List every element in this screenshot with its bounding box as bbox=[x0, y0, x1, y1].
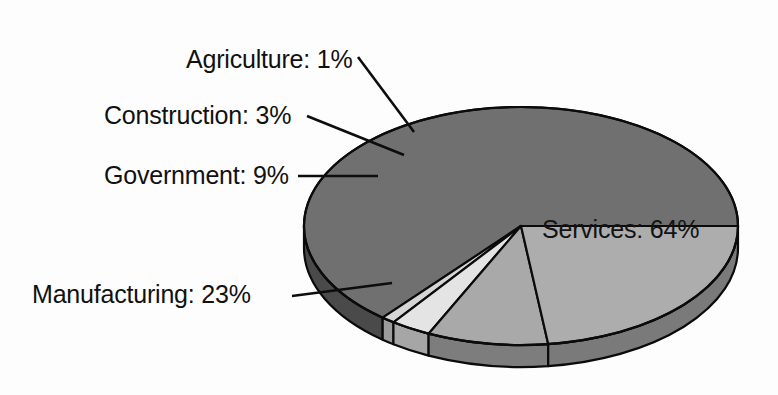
slice-label-services: Services: 64% bbox=[542, 215, 699, 243]
slice-label-government: Government: 9% bbox=[104, 161, 289, 189]
slice-label-agriculture: Agriculture: 1% bbox=[186, 45, 353, 73]
pie-slice-manufacturing[interactable] bbox=[521, 226, 738, 344]
pie-chart-figure: Agriculture: 1%Construction: 3%Governmen… bbox=[0, 0, 778, 395]
leader-line-agriculture bbox=[358, 57, 414, 132]
pie-inside-labels: Services: 64% bbox=[542, 215, 699, 243]
slice-label-manufacturing: Manufacturing: 23% bbox=[32, 280, 251, 308]
slice-label-construction: Construction: 3% bbox=[104, 101, 291, 129]
pie-chart-svg: Agriculture: 1%Construction: 3%Governmen… bbox=[0, 0, 778, 395]
